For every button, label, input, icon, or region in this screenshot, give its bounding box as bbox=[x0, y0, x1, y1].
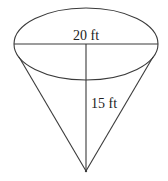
diameter-label: 20 ft bbox=[73, 28, 99, 43]
apex-point bbox=[85, 170, 87, 172]
cone-diagram: 20 ft 15 ft bbox=[0, 0, 168, 181]
height-label: 15 ft bbox=[91, 96, 117, 111]
right-slant-line bbox=[86, 57, 153, 171]
left-slant-line bbox=[19, 57, 86, 171]
cone-svg: 20 ft 15 ft bbox=[0, 0, 168, 181]
